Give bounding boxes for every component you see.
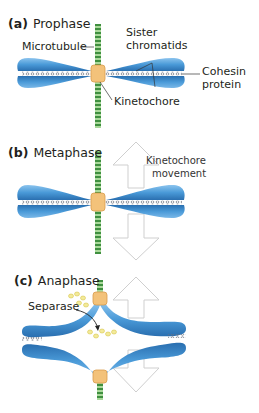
chromatid-left-bottom xyxy=(17,76,92,88)
chromatid-bottom-left xyxy=(22,344,100,378)
kinetochore-movement-arrow-down xyxy=(113,214,159,260)
panel-name: Anaphase xyxy=(38,273,100,288)
panel-a-title: (a)Prophase xyxy=(8,16,90,31)
panel-name: Metaphase xyxy=(33,145,102,160)
kinetochore-top xyxy=(93,292,107,305)
mitosis-diagram xyxy=(0,0,259,413)
chromatid-left-top xyxy=(17,58,92,71)
panel-letter: (c) xyxy=(14,273,33,288)
panel-letter: (b) xyxy=(8,145,28,160)
label-cohesin-2: protein xyxy=(202,79,241,91)
kinetochore-bottom xyxy=(93,370,107,383)
panel-c-anaphase xyxy=(22,277,186,400)
panel-b-title: (b)Metaphase xyxy=(8,145,102,160)
label-microtubule: Microtubule xyxy=(22,41,87,53)
chromatid-right-top xyxy=(106,58,185,71)
panel-name: Prophase xyxy=(33,16,91,31)
kinetochore xyxy=(91,193,105,211)
label-kinetochore-movement-2: movement xyxy=(152,168,206,180)
label-kinetochore: Kinetochore xyxy=(114,96,180,108)
label-sister-2: chromatids xyxy=(126,40,188,52)
panel-letter: (a) xyxy=(8,16,28,31)
label-cohesin-1: Cohesin xyxy=(202,66,246,78)
chromatid-right-bottom xyxy=(106,76,185,88)
label-sister-1: Sister xyxy=(126,27,157,39)
label-kinetochore-movement-1: Kinetochore xyxy=(146,155,206,167)
panel-c-title: (c)Anaphase xyxy=(14,273,100,288)
kinetochore xyxy=(91,65,105,82)
label-separase: Separase xyxy=(28,301,79,313)
